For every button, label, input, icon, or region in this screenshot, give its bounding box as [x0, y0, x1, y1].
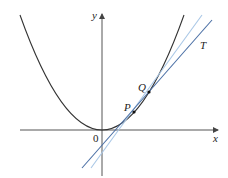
point-p-label: P: [123, 101, 131, 113]
secant-line: [91, 15, 202, 168]
tangent-label: T: [200, 39, 207, 51]
y-axis-label: y: [91, 9, 97, 21]
tangent-secant-diagram: y x 0 P Q T: [0, 0, 228, 178]
point-q-label: Q: [138, 81, 146, 93]
point-p: [132, 110, 135, 113]
point-q: [147, 90, 150, 93]
origin-label: 0: [93, 132, 99, 144]
x-axis-label: x: [212, 132, 218, 144]
